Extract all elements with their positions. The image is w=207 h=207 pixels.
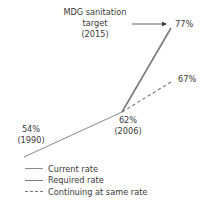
series-line-continuing-at-same-rate <box>122 82 171 112</box>
annotation-mdg-line1: MDG sanitation <box>59 7 131 18</box>
annotation-mid-value: 62% <box>112 115 144 126</box>
annotation-mdg-line2: target <box>59 18 131 29</box>
annotation-target-value: 77% <box>175 19 193 30</box>
legend-label-continuing-rate: Continuing at same rate <box>48 187 147 197</box>
legend-swatch-current-rate <box>25 168 43 169</box>
legend-swatch-continuing-rate <box>25 191 43 192</box>
legend-item-required-rate: Required rate <box>25 175 147 187</box>
annotation-continuing-value: 67% <box>178 74 196 85</box>
legend-item-current-rate: Current rate <box>25 163 147 175</box>
annotation-mid-year: (2006) <box>112 126 144 137</box>
annotation-start-value: 54% <box>15 124 47 135</box>
annotation-mdg-line3: (2015) <box>59 29 131 40</box>
annotation-start-year: (1990) <box>15 135 47 146</box>
legend-swatch-required-rate <box>25 180 43 181</box>
series-line-required-rate <box>122 28 171 112</box>
legend-label-current-rate: Current rate <box>48 164 98 174</box>
legend-item-continuing-rate: Continuing at same rate <box>25 186 147 198</box>
legend-label-required-rate: Required rate <box>48 175 104 185</box>
legend: Current rate Required rate Continuing at… <box>25 163 147 198</box>
